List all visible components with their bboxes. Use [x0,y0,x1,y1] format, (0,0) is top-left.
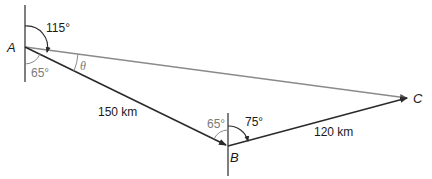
edge-label-b-c: 120 km [314,125,353,139]
point-label-b: B [230,150,239,165]
point-label-a: A [6,40,16,55]
angle-arc-theta [74,54,78,71]
angle-arc-b-65 [214,130,228,139]
angle-label-a-65: 65° [31,66,49,80]
vector-diagram: A B C 115° 65° θ 65° 75° 150 km 120 km [0,0,432,179]
angle-label-theta: θ [80,59,86,73]
edge-a-b [25,47,226,145]
angle-label-b-65: 65° [207,117,225,131]
edge-label-a-b: 150 km [98,105,137,119]
angle-arc-a-65 [25,54,40,64]
point-label-c: C [413,91,423,106]
angle-label-a-115: 115° [46,21,70,35]
angle-label-b-75: 75° [245,115,263,129]
